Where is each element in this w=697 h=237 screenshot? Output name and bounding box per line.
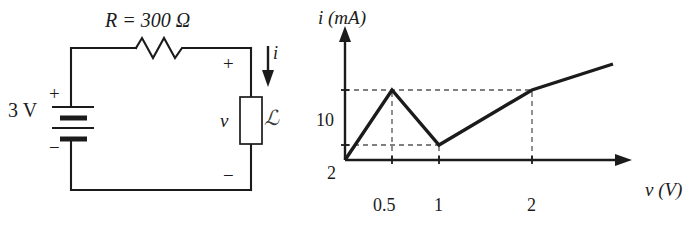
element-minus-sign: − [223,166,234,185]
source-plus-sign: + [49,84,60,103]
graph-dashed-guides [345,90,532,160]
element-plus-sign: + [223,54,234,73]
battery-symbol [52,107,94,139]
y-axis-arrowhead [339,26,351,42]
figure-circuit-and-graph: 3 V + − R = 300 Ω + − v ℒ i [0,0,697,237]
current-label: i [273,44,278,62]
nonlinear-element-label: ℒ [264,108,279,129]
xtick-label-2: 2 [527,196,536,214]
ytick-label-10: 10 [316,111,334,129]
circuit-diagram [0,0,330,237]
nonlinear-element-box [240,97,262,144]
y-axis-title: i (mA) [318,8,366,27]
graph-ticks [341,90,532,164]
x-axis-title: v (V) [645,180,682,199]
resistor-zigzag [136,38,251,58]
resistor-value-label: R = 300 Ω [105,10,190,30]
wire-top-left [71,48,136,107]
x-axis-arrowhead [615,154,632,166]
source-voltage-label: 3 V [8,100,37,120]
ytick-label-2: 2 [327,164,336,182]
source-minus-sign: − [49,138,60,157]
xtick-label-1: 1 [434,196,443,214]
xtick-label-0p5: 0.5 [373,196,396,214]
element-voltage-label: v [220,111,228,130]
